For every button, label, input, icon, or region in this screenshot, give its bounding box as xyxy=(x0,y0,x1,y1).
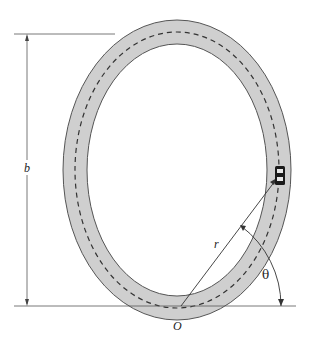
elliptical-track-diagram: b r θ O xyxy=(0,0,310,343)
car-icon xyxy=(275,166,285,185)
angle-label-theta: θ xyxy=(262,268,269,282)
radius-label-r: r xyxy=(214,237,219,251)
origin-label-o: O xyxy=(173,319,182,333)
arrowhead-down-icon xyxy=(25,299,29,306)
origin-point: O xyxy=(173,319,182,333)
angle-arrowhead-bottom-icon xyxy=(278,299,284,306)
arrowhead-up-icon xyxy=(25,34,29,41)
track-inner-edge xyxy=(87,44,267,296)
height-label-b: b xyxy=(24,161,30,175)
race-track xyxy=(63,20,291,320)
